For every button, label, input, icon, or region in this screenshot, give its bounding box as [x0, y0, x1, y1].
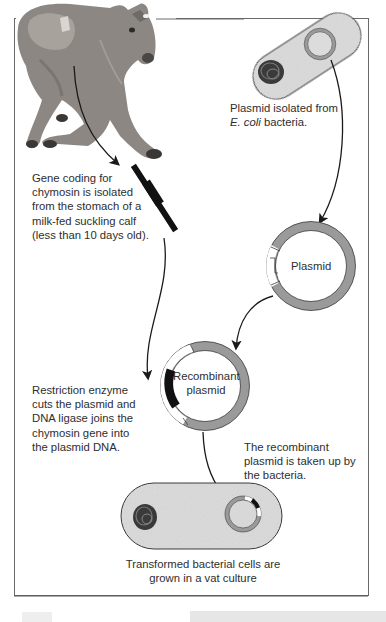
ecoli-plasmid — [306, 30, 334, 58]
label-restriction-enzyme: Restriction enzyme cuts the plasmid and … — [32, 383, 136, 454]
arrow-plasmid-to-recombinant — [236, 296, 273, 348]
transformed-chromosome — [133, 504, 157, 530]
label-line: milk-fed suckling calf — [32, 214, 149, 228]
label-line: Gene coding for — [32, 171, 149, 185]
chymosin-production-diagram — [0, 0, 386, 622]
page-fragment-small — [22, 612, 52, 622]
label-vat-culture: Transformed bacterial cells are grown in… — [110, 557, 296, 585]
label-line: cuts the plasmid and — [32, 397, 136, 411]
ecoli-bacterium — [244, 4, 370, 108]
label-plasmid: Plasmid — [291, 259, 331, 273]
bacterial-chromosome — [258, 60, 284, 84]
label-uptake: The recombinant plasmid is taken up by t… — [244, 440, 356, 483]
label-ecoli-plasmid: Plasmid isolated from E. coli bacteria. — [230, 101, 338, 129]
label-line: Restriction enzyme — [32, 383, 136, 397]
arrow-ecoli-to-plasmid — [320, 60, 343, 222]
label-line: plasmid — [173, 384, 239, 398]
label-line: chymosin is isolated — [32, 185, 149, 199]
label-line: Transformed bacterial cells are — [110, 557, 296, 571]
label-ecoli-plasmid-line1: Plasmid isolated from — [230, 101, 338, 115]
arrow-gene-to-recombinant — [147, 238, 165, 378]
label-ecoli-plasmid-rest: bacteria. — [261, 116, 307, 128]
calf-image — [16, 0, 176, 160]
label-line: the bacteria. — [244, 468, 356, 482]
label-line: the plasmid DNA. — [32, 440, 136, 454]
label-line: Recombinant — [173, 370, 239, 384]
page-fragment — [190, 611, 386, 622]
label-line: The recombinant — [244, 440, 356, 454]
species-name: E. coli — [230, 116, 261, 128]
label-line: DNA ligase joins the — [32, 411, 136, 425]
label-gene-source: Gene coding for chymosin is isolated fro… — [32, 171, 149, 242]
label-ecoli-plasmid-line2: E. coli bacteria. — [230, 115, 338, 129]
label-line: grown in a vat culture — [110, 571, 296, 585]
label-line: from the stomach of a — [32, 199, 149, 213]
label-line: plasmid is taken up by — [244, 454, 356, 468]
label-line: chymosin gene into — [32, 426, 136, 440]
label-recombinant-plasmid: Recombinant plasmid — [173, 370, 239, 397]
label-line: (less than 10 days old). — [32, 228, 149, 242]
